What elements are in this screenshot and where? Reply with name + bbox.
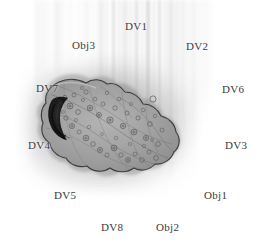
granule — [151, 139, 154, 142]
granule — [119, 153, 123, 157]
label-dv2: DV2 — [186, 40, 208, 52]
granule — [142, 144, 145, 147]
granule-core — [108, 118, 111, 121]
granule-core — [112, 146, 115, 149]
background-streak — [169, 0, 173, 182]
granule — [133, 152, 137, 156]
cytoplasm-granules — [57, 86, 164, 162]
granule — [156, 142, 161, 147]
granule-core — [99, 149, 102, 152]
cell-halo — [37, 74, 180, 176]
background-streak — [181, 0, 184, 168]
granule-core — [68, 104, 71, 107]
granule-core — [122, 125, 125, 128]
background-streak — [106, 0, 108, 120]
granule — [62, 111, 65, 114]
granule-core — [71, 125, 74, 128]
granule-core — [98, 114, 101, 117]
granule — [147, 150, 151, 154]
granule — [105, 153, 109, 157]
granule — [120, 123, 125, 128]
granule — [63, 95, 67, 99]
granule — [125, 111, 129, 115]
granule — [72, 93, 76, 97]
granule — [160, 128, 164, 132]
background-streak — [153, 0, 155, 165]
granule-core — [59, 102, 62, 105]
granule — [114, 136, 118, 140]
background-streak — [192, 0, 195, 150]
granule-core — [84, 136, 87, 139]
granule — [113, 106, 117, 110]
granule — [77, 130, 81, 134]
granule — [126, 158, 131, 163]
granule — [57, 100, 62, 105]
granule-core — [88, 106, 91, 109]
background-streak — [176, 0, 178, 175]
granule — [83, 135, 89, 141]
background-streak — [198, 0, 200, 140]
granule — [97, 147, 102, 152]
granule — [105, 91, 108, 94]
label-obj1: Obj1 — [204, 189, 227, 201]
granule — [154, 156, 159, 161]
granule — [101, 133, 104, 136]
granule — [87, 105, 93, 111]
granule — [131, 129, 137, 135]
granule — [136, 116, 140, 120]
granule — [148, 122, 153, 127]
free-vesicle-icon — [150, 96, 156, 102]
granule — [76, 110, 81, 115]
background-streaks — [0, 0, 262, 247]
background-streak — [209, 0, 211, 112]
granule — [67, 103, 73, 109]
granule-core — [127, 159, 130, 162]
granule — [69, 123, 74, 128]
background-streak — [118, 0, 120, 138]
cell-haze-outer — [18, 55, 198, 195]
label-dv5: DV5 — [54, 189, 76, 201]
granule — [140, 158, 145, 163]
background-streak — [85, 0, 88, 70]
granule — [74, 118, 77, 121]
background-streak — [62, 0, 64, 80]
label-obj3: Obj3 — [72, 39, 95, 51]
granule — [143, 135, 148, 140]
granule — [128, 142, 131, 145]
granule — [97, 113, 102, 118]
nucleus — [48, 97, 70, 140]
label-dv8: DV8 — [101, 221, 123, 233]
granule — [117, 97, 121, 101]
label-dv3: DV3 — [225, 139, 247, 151]
granule — [141, 108, 145, 112]
cell-membrane — [41, 79, 179, 171]
granule — [91, 142, 96, 147]
cytoplasm-texture — [46, 82, 176, 172]
granule — [84, 90, 88, 94]
label-dv1: DV1 — [125, 20, 147, 32]
background-streak — [112, 0, 115, 150]
cell-object — [0, 0, 262, 247]
label-dv6: DV6 — [222, 83, 244, 95]
granule — [153, 114, 156, 117]
granule — [81, 98, 84, 101]
membrane-highlight — [58, 83, 96, 88]
granule — [107, 117, 113, 123]
granule-core — [145, 137, 148, 140]
granule-core — [132, 130, 135, 133]
background-streak — [164, 0, 166, 170]
background-streak — [187, 0, 189, 160]
background-streak — [99, 0, 103, 110]
granule — [87, 125, 90, 128]
granule — [64, 116, 68, 120]
granule — [93, 97, 97, 101]
label-dv4: DV4 — [28, 139, 50, 151]
background-streak — [158, 0, 161, 178]
granule — [129, 102, 132, 105]
background-streak — [55, 0, 59, 88]
granule — [80, 86, 83, 89]
granule — [101, 102, 105, 106]
background-streak — [78, 0, 80, 72]
micrograph-figure: DV1Obj3DV2DV7DV6DV4DV3DV5Obj1DV8Obj2 — [0, 0, 262, 247]
label-dv7: DV7 — [36, 82, 58, 94]
